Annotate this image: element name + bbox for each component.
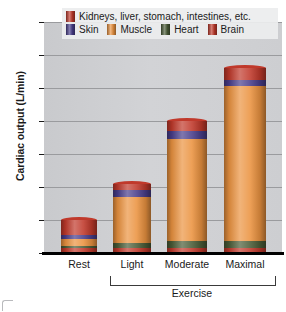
segment-rest-kidneys bbox=[61, 220, 97, 235]
bar-top-cap bbox=[167, 118, 207, 124]
legend-item-brain: Brain bbox=[208, 24, 244, 35]
legend-item-muscle: Muscle bbox=[107, 24, 152, 35]
figure-corner-mark bbox=[2, 300, 13, 311]
legend-swatch-icon bbox=[66, 11, 75, 22]
exercise-bracket bbox=[110, 276, 276, 286]
legend-label: Brain bbox=[221, 24, 244, 35]
segment-light-kidneys bbox=[113, 184, 151, 191]
plot-area bbox=[44, 22, 282, 253]
legend-label: Skin bbox=[79, 24, 98, 35]
exercise-group-label: Exercise bbox=[110, 287, 274, 299]
legend-label: Kidneys, liver, stomach, intestines, etc… bbox=[79, 11, 251, 22]
legend-swatch-icon bbox=[107, 24, 116, 35]
y-tick-20 bbox=[39, 121, 44, 122]
segment-moderate-skin bbox=[167, 131, 207, 140]
legend-label: Muscle bbox=[120, 24, 152, 35]
legend-item-skin: Skin bbox=[66, 24, 98, 35]
y-tick-35 bbox=[39, 22, 44, 23]
legend-item-heart: Heart bbox=[161, 24, 198, 35]
legend-label: Heart bbox=[174, 24, 198, 35]
legend-swatch-icon bbox=[66, 24, 75, 35]
segment-rest-muscle bbox=[61, 239, 97, 247]
y-tick-5 bbox=[39, 220, 44, 221]
bar-top-cap bbox=[113, 181, 151, 187]
bar-rest bbox=[61, 220, 97, 253]
legend: Kidneys, liver, stomach, intestines, etc… bbox=[62, 8, 278, 39]
segment-light-muscle bbox=[113, 197, 151, 243]
segment-light-skin bbox=[113, 190, 151, 197]
bar-light bbox=[113, 184, 151, 253]
x-label-maximal: Maximal bbox=[200, 258, 286, 270]
cardiac-output-stacked-bar-chart: Cardiac output (L/min) Kidneys, liver, s… bbox=[0, 0, 286, 312]
segment-moderate-heart bbox=[167, 241, 207, 248]
y-tick-30 bbox=[39, 55, 44, 56]
y-tick-25 bbox=[39, 88, 44, 89]
y-tick-10 bbox=[39, 187, 44, 188]
bar-top-cap bbox=[224, 65, 266, 71]
bar-top-cap bbox=[61, 217, 97, 223]
legend-row-1: Kidneys, liver, stomach, intestines, etc… bbox=[66, 11, 274, 22]
segment-maximal-muscle bbox=[224, 86, 266, 241]
gridline-30 bbox=[44, 55, 282, 56]
segment-maximal-skin bbox=[224, 80, 266, 87]
y-axis-title: Cardiac output (L/min) bbox=[14, 46, 26, 206]
legend-swatch-icon bbox=[161, 24, 170, 35]
segment-moderate-kidneys bbox=[167, 121, 207, 131]
legend-item-kidneys: Kidneys, liver, stomach, intestines, etc… bbox=[66, 11, 251, 22]
y-tick-15 bbox=[39, 154, 44, 155]
bar-maximal bbox=[224, 68, 266, 253]
segment-maximal-heart bbox=[224, 241, 266, 248]
legend-swatch-icon bbox=[208, 24, 217, 35]
bar-moderate bbox=[167, 121, 207, 253]
segment-maximal-kidneys bbox=[224, 68, 266, 80]
segment-moderate-muscle bbox=[167, 139, 207, 241]
x-axis-line bbox=[42, 252, 284, 255]
legend-row-2: SkinMuscleHeartBrain bbox=[66, 24, 274, 35]
